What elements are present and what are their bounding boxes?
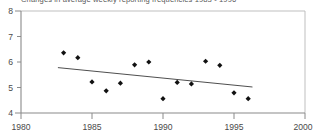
y-tick-label-4: 4 <box>8 108 13 118</box>
x-tick-label-1980: 1980 <box>11 122 30 132</box>
data-point <box>89 79 94 84</box>
data-point <box>246 96 251 101</box>
x-tick-label-2000: 2000 <box>293 122 312 132</box>
trend-line <box>58 68 253 87</box>
y-tick-label-8: 8 <box>8 6 13 16</box>
data-point <box>75 55 80 60</box>
data-point <box>160 96 165 101</box>
data-point <box>175 80 180 85</box>
data-point <box>132 62 137 67</box>
data-point <box>146 59 151 64</box>
x-tick-label-1995: 1995 <box>224 122 243 132</box>
chart-figure: Changes in average weekly reporting freq… <box>0 0 323 136</box>
data-point <box>217 63 222 68</box>
data-point <box>203 59 208 64</box>
data-point <box>118 81 123 86</box>
y-tick-label-6: 6 <box>8 57 13 67</box>
scatter-plot-svg: 8 7 6 5 4 1980 1985 1990 1995 2000 <box>0 0 323 136</box>
y-tick-label-5: 5 <box>8 83 13 93</box>
y-tick-label-7: 7 <box>8 32 13 42</box>
data-point <box>61 50 66 55</box>
data-points-group <box>61 50 251 101</box>
x-axis: 1980 1985 1990 1995 2000 <box>11 113 312 132</box>
data-point <box>231 90 236 95</box>
y-axis: 8 7 6 5 4 <box>8 6 21 118</box>
x-tick-label-1990: 1990 <box>153 122 172 132</box>
data-point <box>104 88 109 93</box>
x-tick-label-1985: 1985 <box>82 122 101 132</box>
data-point <box>189 81 194 86</box>
